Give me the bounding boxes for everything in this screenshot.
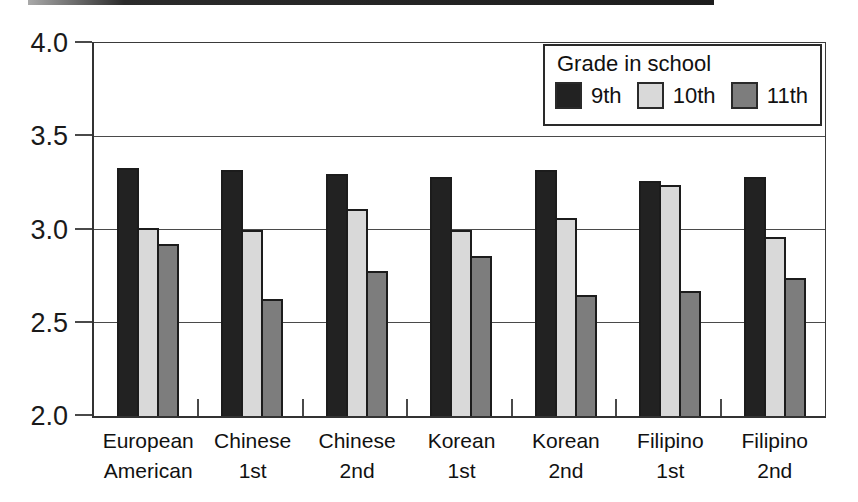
bar-10th: [555, 218, 577, 416]
x-category-label: Korean 1st: [409, 426, 513, 486]
x-category-label: Chinese 2nd: [305, 426, 409, 486]
y-axis-tick: [75, 321, 92, 323]
y-axis-tick: [75, 134, 92, 136]
bar-group: [221, 170, 283, 416]
bar-group: [535, 170, 597, 416]
bar-11th: [679, 291, 701, 416]
x-axis-tick: [406, 399, 408, 416]
y-tick-label: 3.0: [4, 214, 68, 246]
legend-label: 9th: [591, 83, 622, 109]
bar-10th: [346, 209, 368, 416]
bar-group: [430, 177, 492, 416]
bar-9th: [535, 170, 557, 416]
bar-11th: [575, 295, 597, 416]
gridline-3.5: [94, 136, 825, 137]
bar-11th: [261, 299, 283, 417]
x-axis-tick: [197, 399, 199, 416]
bar-10th: [241, 230, 263, 417]
y-tick-label: 2.0: [4, 400, 68, 432]
legend-label: 11th: [767, 83, 808, 109]
x-axis-tick: [302, 399, 304, 416]
bar-11th: [366, 271, 388, 417]
bar-9th: [117, 168, 139, 416]
y-axis-tick: [75, 41, 92, 43]
figure: 4.03.53.02.52.0 European AmericanChinese…: [0, 0, 858, 502]
x-category-label: Filipino 2nd: [723, 426, 827, 486]
bar-9th: [639, 181, 661, 416]
top-rule: [28, 0, 714, 5]
legend-swatch-10th: [637, 82, 664, 109]
x-category-label: Korean 2nd: [514, 426, 618, 486]
bar-group: [639, 181, 701, 416]
y-tick-label: 2.5: [4, 307, 68, 339]
x-category-label: Filipino 1st: [618, 426, 722, 486]
bar-9th: [326, 174, 348, 416]
bar-11th: [157, 244, 179, 416]
bar-group: [326, 174, 388, 416]
legend: Grade in school 9th10th11th: [543, 44, 822, 126]
bar-9th: [430, 177, 452, 416]
bar-11th: [784, 278, 806, 416]
x-axis-tick: [511, 399, 513, 416]
bar-11th: [470, 256, 492, 416]
x-axis-tick: [615, 399, 617, 416]
x-category-label: Chinese 1st: [200, 426, 304, 486]
bar-10th: [137, 228, 159, 416]
legend-item-10th: 10th: [637, 82, 716, 109]
legend-swatch-9th: [555, 82, 582, 109]
x-axis-tick: [720, 399, 722, 416]
y-axis-tick: [75, 228, 92, 230]
x-category-label: European American: [96, 426, 200, 486]
legend-item-9th: 9th: [555, 82, 622, 109]
bar-group: [744, 177, 806, 416]
y-tick-label: 3.5: [4, 120, 68, 152]
legend-item-11th: 11th: [731, 82, 808, 109]
legend-title: Grade in school: [557, 51, 820, 77]
y-tick-label: 4.0: [4, 27, 68, 59]
y-axis-tick: [75, 414, 92, 416]
legend-label: 10th: [673, 83, 716, 109]
bar-10th: [659, 185, 681, 416]
legend-swatch-11th: [731, 82, 758, 109]
bar-10th: [450, 230, 472, 417]
bar-9th: [744, 177, 766, 416]
bar-10th: [764, 237, 786, 416]
bar-9th: [221, 170, 243, 416]
legend-items: 9th10th11th: [545, 82, 820, 109]
bar-group: [117, 168, 179, 416]
